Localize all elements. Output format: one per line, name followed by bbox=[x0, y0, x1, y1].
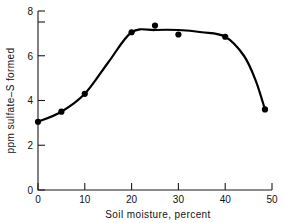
y-tick-label-0: 0 bbox=[27, 185, 33, 196]
y-axis-title: ppm sulfate–S formed bbox=[5, 48, 16, 154]
y-axis-tick-labels: 0 2 4 6 8 bbox=[27, 6, 33, 196]
x-tick-label-0: 0 bbox=[35, 194, 41, 205]
x-tick-label-50: 50 bbox=[266, 194, 278, 205]
trend-curve bbox=[38, 29, 265, 122]
chart-figure: 0 2 4 6 8 0 10 20 30 40 50 Soil moisture… bbox=[0, 0, 284, 223]
data-point bbox=[262, 106, 268, 112]
x-tick-label-40: 40 bbox=[220, 194, 232, 205]
y-tick-label-6: 6 bbox=[27, 51, 33, 62]
y-tick-label-8: 8 bbox=[27, 6, 33, 17]
scatter-plot-svg: 0 2 4 6 8 0 10 20 30 40 50 Soil moisture… bbox=[0, 0, 284, 223]
y-tick-label-2: 2 bbox=[27, 140, 33, 151]
x-tick-label-10: 10 bbox=[79, 194, 91, 205]
x-tick-label-30: 30 bbox=[173, 194, 185, 205]
data-point bbox=[222, 34, 228, 40]
data-point-group bbox=[35, 22, 268, 124]
data-point bbox=[58, 109, 64, 115]
data-point bbox=[175, 31, 181, 37]
data-point bbox=[82, 91, 88, 97]
plot-frame bbox=[38, 11, 272, 190]
y-axis-ticks bbox=[38, 11, 45, 190]
axis-lines bbox=[38, 11, 272, 190]
x-axis-title: Soil moisture, percent bbox=[105, 209, 211, 220]
data-point bbox=[129, 29, 135, 35]
x-tick-label-20: 20 bbox=[126, 194, 138, 205]
x-axis-tick-labels: 0 10 20 30 40 50 bbox=[35, 194, 278, 205]
data-point bbox=[35, 119, 41, 125]
data-point bbox=[152, 22, 158, 28]
y-tick-label-4: 4 bbox=[27, 95, 33, 106]
x-axis-ticks bbox=[38, 183, 272, 190]
